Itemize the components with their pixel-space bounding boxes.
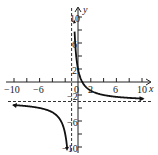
x-axis-label: x xyxy=(148,83,154,94)
y-label-10: 10 xyxy=(70,13,80,24)
arrow-left-icon xyxy=(12,103,17,108)
x-label-2: 2 xyxy=(88,84,93,95)
rational-function-graph: −10 −6 0 2 6 10 x y 10 6 2 −2 −6 −10 xyxy=(0,0,158,155)
y-label-neg6: −6 xyxy=(67,117,78,128)
arrow-right-icon xyxy=(140,96,145,101)
x-label-6: 6 xyxy=(113,84,118,95)
y-axis-label: y xyxy=(82,4,88,15)
x-label-10: 10 xyxy=(137,84,147,95)
y-label-neg2: −2 xyxy=(67,91,78,102)
graph-canvas: −10 −6 0 2 6 10 x y 10 6 2 −2 −6 −10 xyxy=(0,0,158,155)
left-branch-curve xyxy=(13,105,67,149)
right-branch-curve xyxy=(75,32,144,99)
x-label-neg6: −6 xyxy=(33,84,44,95)
y-label-neg10: −10 xyxy=(62,143,78,154)
y-label-2: 2 xyxy=(72,65,77,76)
x-label-neg10: −10 xyxy=(4,84,20,95)
y-label-6: 6 xyxy=(72,39,77,50)
